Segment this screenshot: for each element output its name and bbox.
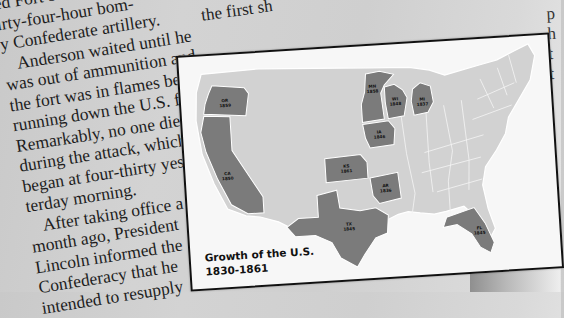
- label-ar-year: 1836: [380, 188, 392, 194]
- map-figure: OR 1859 CA 1850 MN 1858 WI 1848 MI 1837 …: [176, 32, 564, 291]
- label-ks-year: 1861: [341, 168, 353, 174]
- label-ca-year: 1850: [222, 176, 234, 182]
- label-fl-year: 1845: [474, 230, 486, 236]
- label-mi-year: 1837: [416, 101, 428, 107]
- label-wi-year: 1848: [389, 101, 401, 107]
- label-tx-year: 1845: [343, 226, 355, 232]
- label-mn-year: 1858: [367, 88, 379, 94]
- article-top-fragment: the first sh: [200, 0, 274, 26]
- label-ia-year: 1846: [373, 134, 385, 140]
- label-or-year: 1859: [219, 103, 231, 109]
- article-line: p: [546, 4, 556, 24]
